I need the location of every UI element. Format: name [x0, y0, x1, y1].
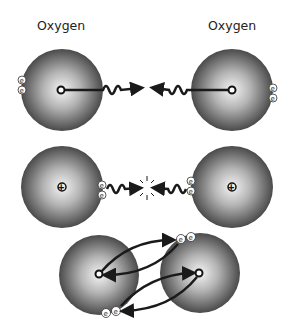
right-nucleus-icon — [229, 87, 236, 94]
panel-approaching: + + e e e e — [21, 146, 273, 228]
svg-text:e: e — [20, 77, 24, 85]
svg-text:e: e — [100, 182, 104, 190]
svg-text:e: e — [189, 188, 193, 196]
oxygen-bonding-diagram: e e e e + + e e — [0, 0, 295, 335]
panel-separate-atoms: e e e e — [18, 49, 277, 131]
collision-burst-icon — [140, 176, 154, 200]
right-nucleus-icon — [196, 270, 203, 277]
svg-text:e: e — [179, 236, 183, 244]
left-electron-arrow-icon — [107, 185, 139, 193]
svg-text:e: e — [271, 85, 275, 93]
svg-text:e: e — [104, 310, 108, 318]
svg-text:e: e — [189, 178, 193, 186]
right-electron-arrow-icon — [155, 185, 186, 193]
right-nucleus-icon: + — [228, 181, 234, 193]
left-nucleus-icon — [58, 87, 65, 94]
svg-text:e: e — [189, 234, 193, 242]
svg-text:e: e — [271, 95, 275, 103]
svg-text:e: e — [100, 192, 104, 200]
svg-text:e: e — [114, 308, 118, 316]
panel-bonded: e e e e — [59, 233, 240, 318]
svg-text:e: e — [20, 87, 24, 95]
